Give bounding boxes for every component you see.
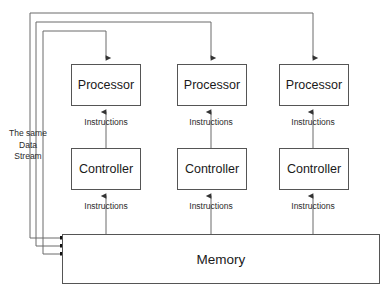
instructions-label-col1-upper: Instructions — [71, 117, 141, 127]
memory-box[interactable]: Memory — [62, 234, 380, 284]
simd-architecture-diagram: Processor Processor Processor Controller… — [0, 0, 388, 294]
controller-label-2: Controller — [185, 162, 239, 176]
instructions-label-col3-lower: Instructions — [278, 201, 348, 211]
data-stream-path-2 — [36, 22, 211, 246]
instructions-label-col1-lower: Instructions — [71, 201, 141, 211]
instructions-label-col3-upper: Instructions — [278, 117, 348, 127]
controller-label-1: Controller — [79, 162, 133, 176]
data-stream-label-line-3: Stream — [2, 151, 54, 163]
processor-label-2: Processor — [184, 78, 240, 92]
processor-label-3: Processor — [286, 78, 342, 92]
controller-box-3[interactable]: Controller — [279, 148, 349, 190]
controller-box-1[interactable]: Controller — [71, 148, 141, 190]
processor-box-3[interactable]: Processor — [279, 64, 349, 106]
instructions-label-col2-upper: Instructions — [176, 117, 246, 127]
processor-label-1: Processor — [78, 78, 134, 92]
memory-label: Memory — [197, 252, 246, 267]
instructions-label-col2-lower: Instructions — [176, 201, 246, 211]
data-stream-label-line-2: Data — [2, 140, 54, 152]
processor-box-1[interactable]: Processor — [71, 64, 141, 106]
data-stream-side-label: The same Data Stream — [2, 128, 54, 163]
data-stream-label-line-1: The same — [2, 128, 54, 140]
controller-box-2[interactable]: Controller — [177, 148, 247, 190]
processor-box-2[interactable]: Processor — [177, 64, 247, 106]
controller-label-3: Controller — [287, 162, 341, 176]
